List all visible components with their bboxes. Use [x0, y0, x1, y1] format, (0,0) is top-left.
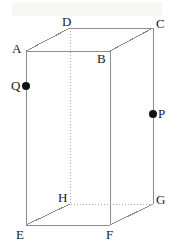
point-label-Q: Q [11, 79, 20, 92]
vertex-label-E: E [16, 228, 24, 241]
vertex-label-C: C [156, 17, 165, 30]
edge-HE [26, 204, 70, 225]
vertex-label-D: D [62, 15, 71, 28]
vertex-label-H: H [58, 191, 67, 204]
vertex-label-B: B [97, 52, 106, 65]
vertex-label-G: G [156, 193, 165, 206]
edge-FG [110, 204, 153, 225]
point-Q-dot [22, 82, 30, 90]
point-label-P: P [158, 107, 165, 120]
point-P-dot [149, 110, 157, 118]
geometry-figure: ABCDEFGHQP [0, 0, 178, 252]
vertex-label-A: A [12, 42, 21, 55]
edge-BC [110, 28, 153, 51]
marked-points-group [22, 82, 157, 118]
edges-group [26, 28, 153, 225]
edge-DA [26, 28, 70, 51]
prism-drawing [0, 0, 178, 252]
vertex-label-F: F [106, 228, 113, 241]
